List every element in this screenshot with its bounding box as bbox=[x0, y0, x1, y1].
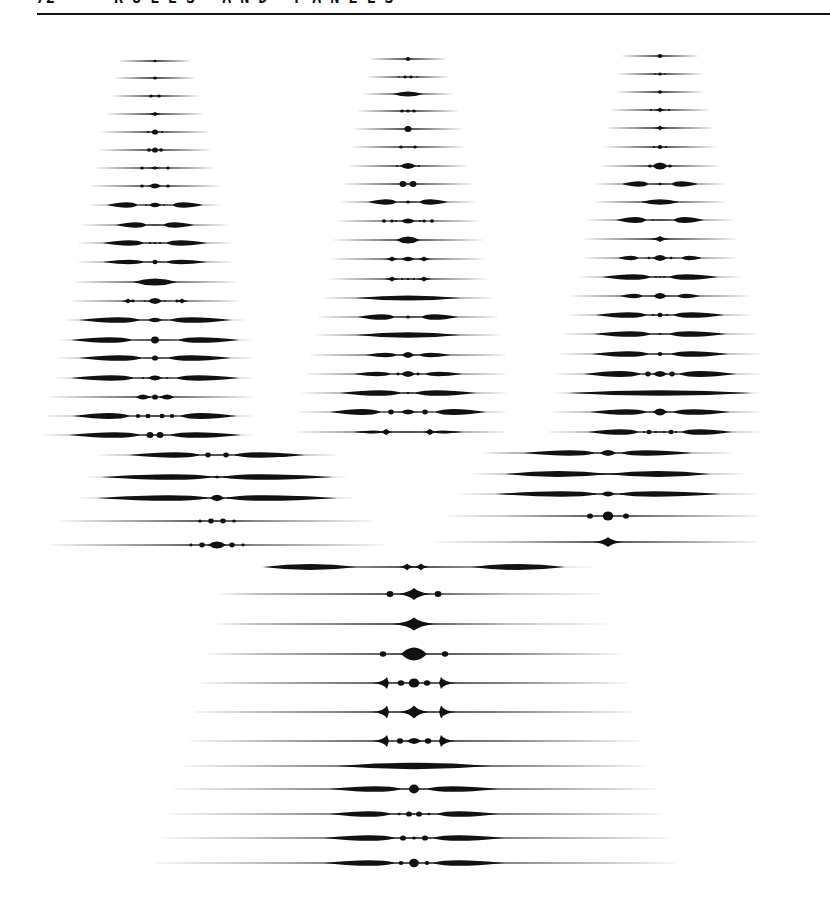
swell-left-ornament bbox=[69, 432, 139, 438]
swell-right-ornament bbox=[674, 312, 724, 318]
spike-left-ornament bbox=[372, 677, 389, 689]
row-bottom-center bbox=[144, 564, 684, 868]
decorative-rule bbox=[609, 108, 711, 113]
swell-left-ornament bbox=[79, 317, 139, 323]
dot-ornament bbox=[664, 73, 666, 75]
diamond-ornament bbox=[384, 276, 400, 281]
swell-left-ornament bbox=[602, 274, 650, 280]
hairline bbox=[584, 219, 736, 220]
swell-right-ornament bbox=[428, 786, 498, 792]
swell-left-ornament bbox=[97, 495, 207, 501]
decorative-rule bbox=[592, 199, 728, 205]
dot-ornament bbox=[149, 94, 153, 97]
dot-ornament bbox=[399, 145, 403, 148]
dot-ornament bbox=[669, 372, 675, 377]
dot-ornament bbox=[643, 431, 645, 433]
decorative-rule bbox=[312, 332, 504, 338]
dot-ornament bbox=[149, 242, 151, 244]
swell-left-ornament bbox=[116, 222, 146, 227]
dot-ornament bbox=[220, 519, 226, 524]
decorative-rule bbox=[41, 413, 269, 419]
dot-ornament bbox=[416, 811, 422, 816]
swell-right-ornament bbox=[672, 181, 698, 186]
decorative-rule bbox=[556, 351, 764, 357]
decorative-rule bbox=[158, 811, 670, 817]
decorative-rule bbox=[105, 112, 205, 116]
lens-ornament bbox=[148, 318, 162, 322]
dot-ornament bbox=[412, 109, 416, 112]
decorative-rule bbox=[334, 218, 482, 223]
swell-right-ornament bbox=[177, 375, 239, 380]
decorative-rule bbox=[164, 785, 664, 794]
swell-left-ornament bbox=[103, 240, 143, 245]
dot-ornament bbox=[648, 257, 651, 259]
decorative-rule bbox=[426, 537, 790, 547]
decorative-rule bbox=[314, 314, 502, 320]
dot-ornament bbox=[658, 352, 663, 356]
diamond-ornament bbox=[149, 112, 161, 116]
dot-ornament bbox=[136, 414, 141, 418]
decorative-rule bbox=[113, 76, 197, 79]
decorative-rule bbox=[110, 94, 200, 97]
dot-ornament bbox=[398, 813, 401, 815]
decorative-rule bbox=[584, 217, 736, 223]
swell-right-ornament bbox=[670, 331, 726, 337]
decorative-rule bbox=[93, 166, 217, 170]
lens-ornament bbox=[506, 471, 610, 477]
swell-left-ornament bbox=[330, 786, 400, 792]
decorative-rule bbox=[87, 202, 223, 207]
diamond-ornament bbox=[654, 126, 666, 131]
decorative-rule bbox=[51, 375, 259, 380]
dot-ornament bbox=[397, 738, 403, 744]
swell-left-ornament bbox=[588, 429, 638, 435]
dot-ornament bbox=[623, 513, 629, 518]
dot-ornament bbox=[151, 337, 159, 344]
dot-ornament bbox=[406, 811, 412, 816]
diamond-ornament bbox=[413, 564, 429, 571]
dot-ornament bbox=[159, 242, 161, 244]
decorative-rule bbox=[174, 763, 654, 769]
dot-ornament bbox=[648, 164, 652, 167]
decorative-rule bbox=[202, 648, 626, 661]
dot-ornament bbox=[145, 414, 150, 418]
dot-ornament bbox=[659, 183, 662, 185]
dot-ornament bbox=[398, 680, 404, 686]
lens-ornament bbox=[337, 763, 491, 769]
dot-ornament bbox=[418, 165, 420, 167]
decorative-rule bbox=[55, 519, 379, 524]
spike-left-ornament bbox=[372, 735, 389, 747]
lens-ornament bbox=[641, 199, 679, 205]
dot-ornament bbox=[399, 861, 404, 865]
dot-ornament bbox=[675, 431, 677, 433]
decorative-rule bbox=[620, 54, 700, 58]
lens-ornament bbox=[653, 409, 667, 416]
decorative-rule bbox=[338, 199, 478, 204]
dot-ornament bbox=[147, 432, 154, 438]
dot-ornament bbox=[425, 738, 431, 744]
decorative-rule bbox=[548, 409, 772, 416]
swell-right-ornament bbox=[674, 217, 704, 223]
hairline bbox=[55, 520, 379, 521]
swell-right-ornament bbox=[223, 474, 333, 480]
swell-left-ornament bbox=[590, 409, 646, 415]
dot-ornament bbox=[241, 544, 244, 547]
decorative-rule bbox=[43, 542, 391, 549]
swell-right-ornament bbox=[227, 495, 337, 501]
lens-ornament bbox=[148, 298, 162, 304]
lens-ornament bbox=[402, 352, 414, 358]
swell-left-ornament bbox=[592, 351, 648, 357]
dot-ornament bbox=[400, 181, 407, 187]
dot-ornament bbox=[163, 204, 165, 206]
spike-right-ornament bbox=[439, 706, 456, 719]
swell-right-ornament bbox=[620, 491, 720, 496]
decorative-rule bbox=[226, 564, 602, 571]
decorative-rule bbox=[55, 337, 255, 344]
dot-ornament bbox=[419, 220, 421, 222]
swell-left-ornament bbox=[616, 217, 646, 223]
dot-ornament bbox=[144, 300, 146, 302]
decorative-rule bbox=[97, 147, 213, 152]
decorative-rule bbox=[150, 835, 678, 841]
diamond-ornament bbox=[654, 108, 666, 113]
dot-ornament bbox=[650, 109, 652, 111]
decorative-rule bbox=[544, 429, 776, 435]
